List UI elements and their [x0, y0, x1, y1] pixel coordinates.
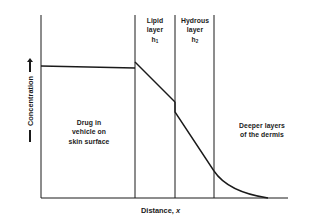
label-line: Lipid: [138, 16, 173, 25]
label-line: Hydrous: [175, 16, 215, 25]
hydrous-gradient-line: [175, 102, 214, 171]
label-line: vehicle on: [55, 127, 123, 136]
arrow-right-icon: [27, 58, 33, 72]
region-label-dermis: Deeper layers of the dermis: [222, 121, 303, 140]
label-symbol: h2: [175, 35, 215, 44]
region-label-lipid: Lipid layer h1: [138, 16, 173, 44]
region-label-hydrous: Hydrous layer h2: [175, 16, 215, 44]
label-symbol: h1: [138, 35, 173, 44]
region-label-vehicle: Drug in vehicle on skin surface: [55, 118, 123, 146]
label-line: layer: [138, 25, 173, 34]
label-line: Drug in: [55, 118, 123, 127]
y-axis-label-text: Concentration: [26, 76, 35, 126]
label-line: Deeper layers: [222, 121, 303, 130]
diagram: Concentration Drug in vehicle on skin su…: [0, 0, 309, 221]
lipid-gradient-line: [135, 62, 175, 102]
dermis-decay-curve: [214, 171, 268, 198]
label-line: skin surface: [55, 137, 123, 146]
label-line: of the dermis: [222, 130, 303, 139]
x-axis-label: Distance, x: [141, 206, 180, 215]
dash-icon: [29, 130, 30, 142]
vehicle-concentration-line: [41, 66, 135, 68]
x-axis-variable: x: [176, 206, 180, 215]
label-line: layer: [175, 25, 215, 34]
y-axis-label: Concentration: [25, 35, 35, 165]
x-axis-label-text: Distance,: [141, 206, 174, 215]
